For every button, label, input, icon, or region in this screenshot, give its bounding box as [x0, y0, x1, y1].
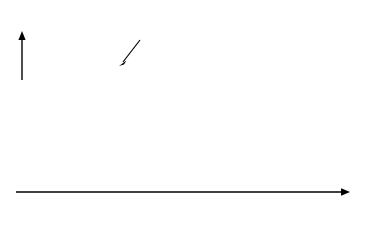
figure-canvas: [0, 0, 372, 225]
annotation-leader-arrowhead: [119, 61, 127, 67]
annotation-leader-line: [123, 40, 140, 62]
x-axis-arrowhead: [341, 188, 350, 196]
quadratic-element-figure: [0, 0, 372, 225]
y-axis-arrowhead: [18, 31, 25, 40]
